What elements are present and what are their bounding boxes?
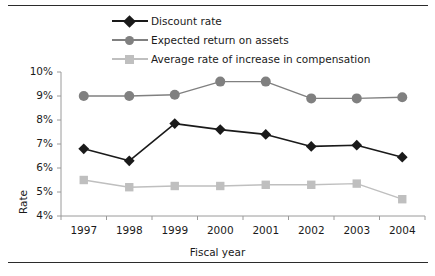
plot-svg xyxy=(0,60,435,235)
x-tick-label: 2002 xyxy=(288,224,334,236)
bottom-divider-rule xyxy=(8,262,428,263)
y-axis-title: Rate xyxy=(17,172,29,232)
x-tick-label: 1998 xyxy=(106,224,152,236)
x-tick-label: 2000 xyxy=(197,224,243,236)
legend-swatch-discount-rate xyxy=(112,14,148,28)
legend-item-discount-rate: Discount rate xyxy=(112,12,412,29)
legend-item-expected-return: Expected return on assets xyxy=(112,31,412,48)
y-tick-label: 9% xyxy=(19,90,53,101)
y-tick-label: 7% xyxy=(19,138,53,149)
chart-figure: Discount rate Expected return on assets … xyxy=(0,0,435,276)
x-axis-title: Fiscal year xyxy=(0,246,435,258)
top-divider-rule xyxy=(8,5,428,6)
plot-area: 4%5%6%7%8%9%10% 199719981999200020012002… xyxy=(0,60,435,235)
x-tick-label: 2001 xyxy=(243,224,289,236)
x-tick-label: 1997 xyxy=(61,224,107,236)
y-tick-label: 10% xyxy=(19,66,53,77)
legend-label-discount-rate: Discount rate xyxy=(148,14,222,28)
y-tick-label: 8% xyxy=(19,114,53,125)
legend-swatch-expected-return xyxy=(112,33,148,47)
diamond-marker-icon xyxy=(123,15,136,28)
x-tick-label: 1999 xyxy=(152,224,198,236)
circle-marker-icon xyxy=(125,36,134,45)
legend-label-expected-return: Expected return on assets xyxy=(148,33,289,47)
x-tick-label: 2003 xyxy=(334,224,380,236)
x-tick-label: 2004 xyxy=(379,224,425,236)
